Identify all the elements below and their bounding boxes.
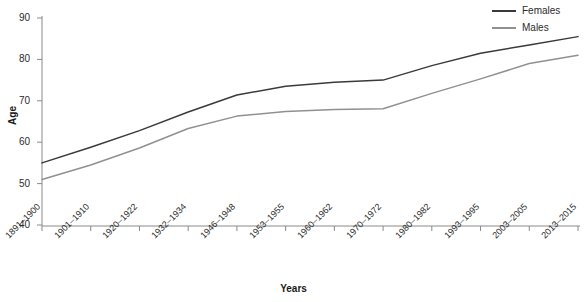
chart-plot-area <box>0 0 587 302</box>
legend-item-females: Females <box>492 3 587 18</box>
y-axis-tick-label: 80 <box>2 54 30 64</box>
y-axis-tick-label: 90 <box>2 13 30 23</box>
line-chart: 405060708090 1891–19001901–19101920–1922… <box>0 0 587 302</box>
axis-lines <box>42 16 580 226</box>
x-axis-title: Years <box>0 283 587 294</box>
legend-swatch-icon <box>492 10 516 12</box>
chart-legend: FemalesMales <box>492 3 587 37</box>
series-lines <box>42 37 578 180</box>
legend-label: Males <box>522 23 549 33</box>
y-axis-tick-label: 50 <box>2 179 30 189</box>
y-axis-ticks <box>37 18 42 225</box>
series-line-males <box>42 55 578 179</box>
legend-item-males: Males <box>492 20 587 35</box>
y-axis-tick-label: 60 <box>2 137 30 147</box>
series-line-females <box>42 37 578 163</box>
legend-swatch-icon <box>492 27 516 29</box>
legend-label: Females <box>522 6 560 16</box>
y-axis-title: Age <box>7 96 18 136</box>
